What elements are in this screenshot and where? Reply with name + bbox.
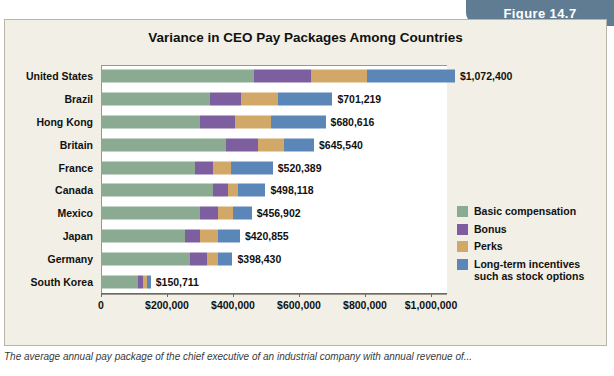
stacked-bar bbox=[101, 207, 252, 220]
value-label: $420,855 bbox=[245, 230, 289, 242]
value-label: $150,711 bbox=[156, 276, 199, 288]
bar-segment bbox=[241, 93, 277, 106]
bar-segment bbox=[207, 252, 219, 265]
bar-segment bbox=[228, 184, 238, 197]
category-label: Mexico bbox=[57, 207, 93, 219]
x-tick-label: 0 bbox=[98, 299, 104, 311]
x-tick bbox=[167, 293, 168, 297]
legend-label: Perks bbox=[474, 240, 503, 253]
legend-label: Basic compensation bbox=[474, 205, 576, 218]
bar-segment bbox=[200, 229, 218, 242]
chart-title: Variance in CEO Pay Packages Among Count… bbox=[5, 30, 606, 45]
bar-segment bbox=[195, 161, 213, 174]
table-row: $520,389 bbox=[101, 156, 561, 179]
bar-segment bbox=[271, 115, 326, 128]
bar-segment bbox=[101, 70, 254, 83]
bar-segment bbox=[147, 275, 151, 288]
value-label: $498,118 bbox=[270, 184, 313, 196]
legend-item: Perks bbox=[457, 240, 607, 253]
x-tick bbox=[365, 293, 366, 297]
bar-segment bbox=[101, 229, 185, 242]
x-tick bbox=[299, 293, 300, 297]
stacked-bar bbox=[101, 115, 326, 128]
stacked-bar bbox=[101, 275, 151, 288]
category-label: Japan bbox=[63, 230, 93, 242]
bar-segment bbox=[226, 138, 257, 151]
value-label: $456,902 bbox=[257, 207, 301, 219]
bar-segment bbox=[210, 93, 241, 106]
stacked-bar bbox=[101, 70, 455, 83]
x-tick-label: $400,000 bbox=[211, 299, 255, 311]
legend-label: Long-term incentives such as stock optio… bbox=[474, 258, 607, 283]
table-row: $680,616 bbox=[101, 111, 561, 134]
bar-segment bbox=[101, 275, 138, 288]
bar-segment bbox=[101, 93, 210, 106]
bar-segment bbox=[278, 93, 333, 106]
value-label: $701,219 bbox=[337, 93, 381, 105]
category-axis-labels: United StatesBrazilHong KongBritainFranc… bbox=[5, 65, 97, 293]
bar-segment bbox=[213, 161, 231, 174]
bar-segment bbox=[238, 184, 265, 197]
value-label: $398,430 bbox=[237, 253, 281, 265]
table-row: $645,540 bbox=[101, 133, 561, 156]
stacked-bar bbox=[101, 138, 314, 151]
bar-segment bbox=[101, 184, 213, 197]
stacked-bar bbox=[101, 252, 232, 265]
legend-swatch bbox=[457, 241, 468, 252]
legend-label: Bonus bbox=[474, 223, 507, 236]
value-label: $1,072,400 bbox=[460, 70, 513, 82]
category-label: South Korea bbox=[31, 276, 93, 288]
bar-segment bbox=[185, 229, 200, 242]
category-label: Britain bbox=[60, 139, 93, 151]
category-label: Brazil bbox=[64, 93, 93, 105]
bar-segment bbox=[101, 252, 190, 265]
bar-segment bbox=[218, 252, 232, 265]
value-label: $680,616 bbox=[331, 116, 375, 128]
bar-segment bbox=[213, 184, 228, 197]
stacked-bar bbox=[101, 161, 273, 174]
table-row: $498,118 bbox=[101, 179, 561, 202]
bar-segment bbox=[231, 161, 272, 174]
chart-legend: Basic compensationBonusPerksLong-term in… bbox=[457, 205, 607, 288]
category-label: France bbox=[59, 162, 93, 174]
x-tick bbox=[101, 293, 102, 297]
bar-segment bbox=[101, 161, 195, 174]
category-label: Hong Kong bbox=[36, 116, 93, 128]
legend-item: Long-term incentives such as stock optio… bbox=[457, 258, 607, 283]
bar-segment bbox=[101, 138, 226, 151]
legend-swatch bbox=[457, 259, 468, 270]
legend-swatch bbox=[457, 224, 468, 235]
x-tick-label: $600,000 bbox=[277, 299, 321, 311]
stacked-bar bbox=[101, 184, 265, 197]
bar-segment bbox=[367, 70, 455, 83]
category-label: United States bbox=[26, 70, 93, 82]
value-label: $645,540 bbox=[319, 139, 363, 151]
chart-panel: Variance in CEO Pay Packages Among Count… bbox=[4, 19, 607, 346]
legend-swatch bbox=[457, 206, 468, 217]
x-tick-label: $200,000 bbox=[145, 299, 189, 311]
bar-segment bbox=[218, 229, 240, 242]
bar-segment bbox=[200, 115, 235, 128]
value-label: $520,389 bbox=[278, 162, 322, 174]
bar-segment bbox=[233, 207, 252, 220]
bar-segment bbox=[101, 115, 200, 128]
figure-caption: The average annual pay package of the ch… bbox=[4, 350, 604, 363]
bar-segment bbox=[258, 138, 284, 151]
bar-segment bbox=[284, 138, 314, 151]
stacked-bar bbox=[101, 93, 332, 106]
stacked-bar bbox=[101, 229, 240, 242]
x-tick bbox=[233, 293, 234, 297]
bar-segment bbox=[190, 252, 207, 265]
x-tick bbox=[431, 293, 432, 297]
bar-segment bbox=[218, 207, 233, 220]
legend-item: Basic compensation bbox=[457, 205, 607, 218]
x-tick-label: $1,000,000 bbox=[405, 299, 458, 311]
category-label: Germany bbox=[47, 253, 93, 265]
x-axis-line bbox=[101, 293, 447, 294]
bar-segment bbox=[254, 70, 310, 83]
legend-item: Bonus bbox=[457, 223, 607, 236]
table-row: $1,072,400 bbox=[101, 65, 561, 88]
table-row: $701,219 bbox=[101, 88, 561, 111]
x-tick-label: $800,000 bbox=[343, 299, 387, 311]
bar-segment bbox=[200, 207, 218, 220]
